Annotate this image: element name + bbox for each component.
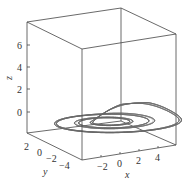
- y-tick-label: −2: [46, 153, 57, 164]
- x-tick-label: −2: [97, 161, 108, 172]
- attractor-trajectory: [55, 103, 182, 133]
- z-axis-label: z: [3, 76, 14, 81]
- box-edge: [27, 22, 82, 49]
- y-tick-label: 0: [37, 147, 42, 158]
- box-edge: [82, 145, 176, 160]
- trajectory-path: [55, 103, 182, 133]
- x-tick-label: 2: [136, 155, 141, 166]
- plot-box: [27, 8, 176, 160]
- y-tick-label: −4: [59, 160, 70, 171]
- z-tick-label: 6: [17, 40, 22, 51]
- y-tick-label: 2: [24, 141, 29, 152]
- x-tick-label: 4: [155, 152, 160, 163]
- z-axis: 6 4 2 0 z: [3, 40, 30, 118]
- box-edge: [27, 8, 121, 22]
- x-axis: −2 0 2 4 x: [97, 146, 160, 180]
- box-edge: [27, 121, 121, 133]
- y-axis: 2 0 −2 −4 y: [24, 141, 70, 177]
- y-axis-label: y: [42, 166, 48, 177]
- box-edge: [121, 8, 176, 34]
- z-tick-label: 4: [17, 62, 22, 73]
- z-tick-label: 0: [17, 107, 22, 118]
- attractor-3d-plot: 6 4 2 0 z 2 0 −2 −4 y −2 0 2 4 x: [0, 0, 186, 185]
- z-tick-label: 2: [17, 84, 22, 95]
- x-tick-label: 0: [117, 158, 122, 169]
- x-axis-label: x: [124, 169, 130, 180]
- box-edge: [82, 34, 176, 49]
